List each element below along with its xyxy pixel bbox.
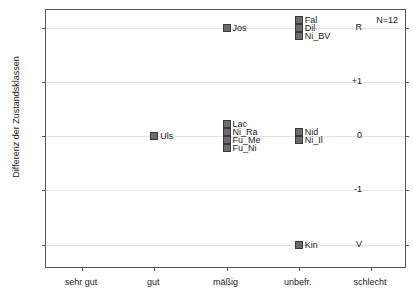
y-tick-right <box>405 82 409 83</box>
data-point-marker <box>295 241 303 249</box>
y-tick <box>42 28 46 29</box>
data-point-marker <box>223 24 231 32</box>
clipped-title-text <box>45 0 406 1</box>
data-point-marker <box>223 136 231 144</box>
data-point-label: Uls <box>160 131 173 141</box>
data-point-marker <box>295 128 303 136</box>
y-tick <box>42 82 46 83</box>
gridline <box>46 190 405 191</box>
data-point-label: Ni_Il <box>305 135 323 145</box>
data-point-label: Jos <box>233 23 247 33</box>
data-point-marker <box>295 24 303 32</box>
x-tick <box>371 267 372 271</box>
x-tick-label: gut <box>147 277 160 287</box>
x-tick <box>227 267 228 271</box>
data-point-marker <box>150 132 158 140</box>
x-tick <box>299 267 300 271</box>
x-tick-label: sehr gut <box>65 277 98 287</box>
gridline <box>46 245 405 246</box>
x-tick-label: schlecht <box>353 277 386 287</box>
y-tick-label: 0 <box>357 130 362 140</box>
data-point-label: Kin <box>305 240 318 250</box>
x-tick <box>154 267 155 271</box>
data-point-label: Fu_Ni <box>233 143 257 153</box>
y-tick <box>42 136 46 137</box>
y-tick <box>42 190 46 191</box>
data-point-marker <box>223 128 231 136</box>
data-point-label: Ni_BV <box>305 31 331 41</box>
data-point-marker <box>295 16 303 24</box>
y-tick-label: -1 <box>354 184 362 194</box>
data-point-marker <box>223 120 231 128</box>
sample-size-annotation: N=12 <box>376 15 398 25</box>
y-tick-label: +1 <box>352 76 362 86</box>
y-tick-label: V <box>356 239 362 249</box>
y-tick-right <box>405 245 409 246</box>
y-tick-right <box>405 136 409 137</box>
y-tick <box>42 245 46 246</box>
y-tick-label: R <box>356 22 363 32</box>
x-tick-label: mäßig <box>213 277 238 287</box>
data-point-marker <box>223 144 231 152</box>
x-tick-label: unbefr. <box>284 277 312 287</box>
y-axis-title: Differenz der Zustandsklassen <box>11 22 21 212</box>
y-tick-right <box>405 28 409 29</box>
chart-page: UlsJosLacNi_RaFu_MeFu_NiFalDilNi_BVNidNi… <box>0 0 413 295</box>
data-point-marker <box>295 32 303 40</box>
y-tick-right <box>405 190 409 191</box>
data-point-marker <box>295 136 303 144</box>
x-tick <box>82 267 83 271</box>
plot-area: UlsJosLacNi_RaFu_MeFu_NiFalDilNi_BVNidNi… <box>45 9 406 268</box>
